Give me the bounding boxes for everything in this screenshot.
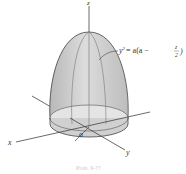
y-axis-label: y (125, 148, 130, 157)
x-axis-label: x (7, 138, 12, 147)
figure-caption: Prob. 9-?? (76, 165, 101, 171)
radius-label: a (79, 130, 83, 139)
fraction-denominator: 2 (175, 52, 178, 58)
equation-close-paren: ) (179, 47, 183, 56)
z-axis-label: z (86, 0, 90, 7)
equation: y2= a(a − (118, 46, 149, 55)
paraboloid-figure: z x y a y2= a(a − z 2 ) Prob. 9-?? (0, 0, 186, 174)
fraction-numerator: z (174, 44, 178, 50)
equation-rhs: = a(a − (126, 46, 149, 55)
